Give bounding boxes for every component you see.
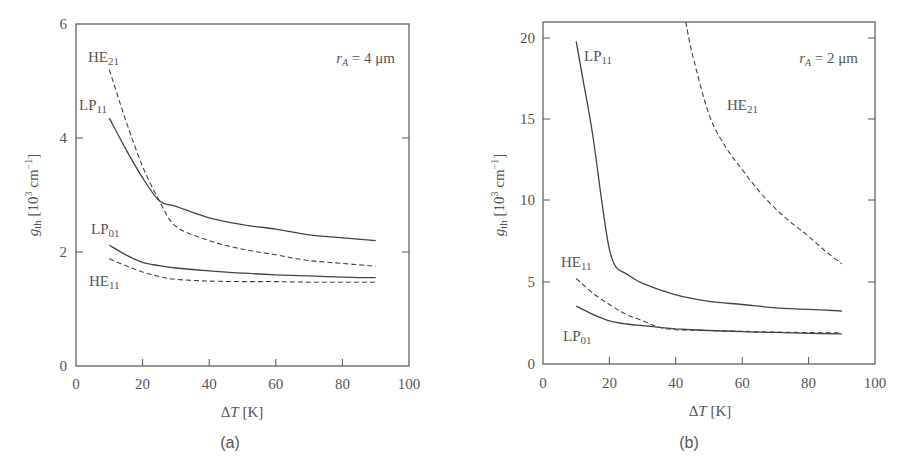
- x-tick-label: 80: [801, 375, 816, 391]
- y-axis-label-b: gth [103 cm−1]: [489, 154, 509, 237]
- plot-frame-b: [543, 22, 875, 364]
- y-tick-label: 15: [520, 111, 535, 127]
- panel-label-a: (a): [220, 434, 240, 451]
- x-tick-label: 60: [268, 376, 283, 392]
- annotation-a: rA = 4 μm: [336, 50, 395, 68]
- curve-labels-a: HE21 LP11 LP01 HE11: [79, 49, 120, 291]
- panel-label-b: (b): [679, 434, 699, 451]
- curves-a: [109, 70, 375, 283]
- x-tick-label: 20: [135, 376, 150, 392]
- label-he21-a: HE21: [88, 49, 119, 67]
- curve-lp11-a: [109, 118, 375, 241]
- curve-lp11-b: [576, 41, 842, 311]
- curves-b: [576, 22, 842, 334]
- x-axis-label-a: ΔT [K]: [221, 404, 264, 420]
- y-tick-labels-a: 0 2 4 6: [60, 16, 68, 374]
- y-tick-labels-b: 0 5 10 15 20: [520, 30, 535, 372]
- y-tick-label: 0: [60, 358, 68, 374]
- x-tick-label: 40: [202, 376, 217, 392]
- y-tick-label: 4: [60, 130, 68, 146]
- curve-labels-b: LP11 HE21 HE11 LP01: [561, 48, 758, 346]
- label-he11-b: HE11: [561, 254, 592, 272]
- x-tick-label: 60: [735, 375, 750, 391]
- x-tick-label: 80: [335, 376, 350, 392]
- y-tick-label: 5: [528, 274, 536, 290]
- x-tick-labels-a: 0 20 40 60 80 100: [72, 376, 420, 392]
- label-lp11-a: LP11: [79, 97, 107, 115]
- y-axis-label-a: gth [103 cm−1]: [23, 154, 43, 237]
- panel-b: 0 20 40 60 80 100 0 5 10 15 20 ΔT [K] gt…: [489, 22, 886, 451]
- x-tick-label: 100: [398, 376, 421, 392]
- curve-lp01-b: [576, 306, 842, 334]
- x-tick-label: 20: [602, 375, 617, 391]
- y-ticks-a: [76, 138, 409, 252]
- figure: 0 20 40 60 80 100 0 2 4 6 ΔT [K] gth [10…: [0, 0, 902, 475]
- plot-frame-a: [76, 24, 409, 366]
- label-lp01-b: LP01: [563, 328, 592, 346]
- y-tick-label: 0: [528, 356, 536, 372]
- y-tick-label: 2: [60, 244, 68, 260]
- x-tick-label: 0: [539, 375, 547, 391]
- x-ticks-a: [143, 359, 343, 366]
- label-he11-a: HE11: [89, 273, 120, 291]
- x-tick-label: 0: [72, 376, 80, 392]
- x-ticks-b: [609, 357, 808, 364]
- curve-lp01-a: [109, 245, 375, 277]
- x-tick-labels-b: 0 20 40 60 80 100: [539, 375, 886, 391]
- panel-a: 0 20 40 60 80 100 0 2 4 6 ΔT [K] gth [10…: [23, 16, 420, 451]
- y-ticks-b: [543, 38, 875, 282]
- annotation-b: rA = 2 μm: [799, 50, 858, 68]
- label-lp01-a: LP01: [91, 221, 120, 239]
- x-axis-label-b: ΔT [K]: [689, 403, 732, 419]
- x-tick-label: 100: [864, 375, 887, 391]
- y-tick-label: 6: [60, 16, 68, 32]
- x-tick-label: 40: [668, 375, 683, 391]
- y-tick-label: 20: [520, 30, 535, 46]
- y-tick-label: 10: [520, 192, 535, 208]
- label-he21-b: HE21: [727, 97, 758, 115]
- curve-he11-b: [576, 279, 842, 333]
- label-lp11-b: LP11: [584, 48, 612, 66]
